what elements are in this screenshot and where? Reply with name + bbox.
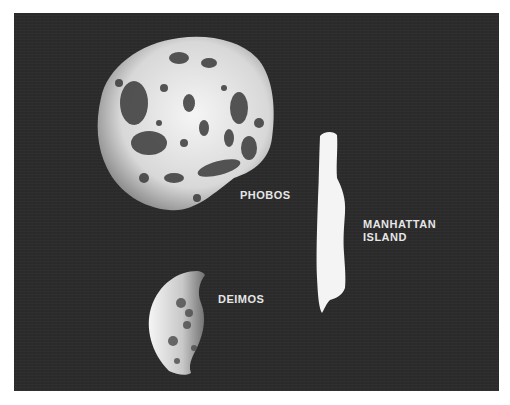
deimos-label: DEIMOS	[218, 293, 264, 306]
phobos-label: PHOBOS	[240, 189, 291, 202]
figure-photo: PHOBOS DEIMOS MANHATTAN ISLAND	[14, 13, 499, 391]
manhattan-island-label-line1: MANHATTAN	[363, 218, 436, 231]
manhattan-island-label-line2: ISLAND	[363, 231, 407, 244]
manhattan-island-image	[310, 128, 350, 318]
deimos-image	[139, 263, 214, 378]
